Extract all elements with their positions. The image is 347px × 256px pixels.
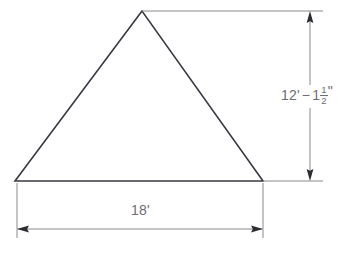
fraction-numerator: 1 bbox=[320, 85, 327, 95]
triangle-outline bbox=[15, 11, 263, 181]
height-inches-fraction: 1 2 bbox=[320, 85, 327, 106]
fraction-denominator: 2 bbox=[320, 95, 327, 106]
arrowhead-down-icon bbox=[307, 169, 314, 181]
height-separator: − bbox=[300, 88, 312, 102]
height-inches-whole: 1 bbox=[312, 88, 320, 102]
arrowhead-up-icon bbox=[307, 11, 314, 23]
vertical-dimension-label: 12' − 1 1 2 " bbox=[281, 85, 333, 106]
arrowhead-left-icon bbox=[17, 226, 29, 233]
arrowhead-right-icon bbox=[251, 226, 263, 233]
horizontal-dimension-label: 18' bbox=[131, 203, 150, 217]
technical-drawing-canvas: 12' − 1 1 2 " 18' bbox=[0, 0, 347, 256]
inch-mark: " bbox=[328, 84, 333, 98]
drawing-svg bbox=[0, 0, 347, 256]
height-feet-value: 12' bbox=[281, 88, 300, 102]
triangle-shape bbox=[15, 11, 263, 181]
